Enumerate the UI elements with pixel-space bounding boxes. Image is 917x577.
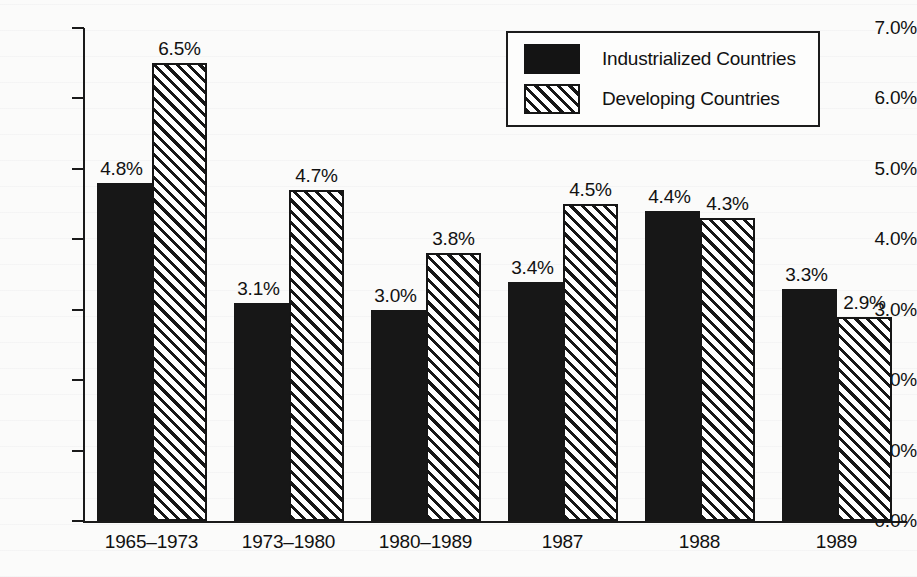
bar-developing[interactable]: [426, 253, 481, 521]
legend-item-developing-countries: Developing Countries: [524, 84, 780, 114]
bar-developing[interactable]: [563, 204, 618, 521]
bar-group: 3.1%4.7%: [220, 28, 357, 521]
x-axis-label: 1989: [768, 531, 905, 553]
x-axis-label: 1965–1973: [83, 531, 220, 553]
legend-swatch-solid-icon: [524, 44, 580, 74]
x-axis-label: 1973–1980: [220, 531, 357, 553]
bar-industrialized[interactable]: [645, 211, 700, 521]
bar-developing[interactable]: [700, 218, 755, 521]
bar-developing[interactable]: [289, 190, 344, 521]
bar-value-label: 4.4%: [639, 186, 701, 208]
bar-group: 3.0%3.8%: [357, 28, 494, 521]
bar-value-label: 6.5%: [149, 38, 211, 60]
bar-industrialized[interactable]: [782, 289, 837, 521]
bar-value-label: 3.4%: [502, 257, 564, 279]
bar-value-label: 3.0%: [365, 285, 427, 307]
bar-value-label: 3.1%: [228, 278, 290, 300]
x-axis-label: 1987: [494, 531, 631, 553]
bar-industrialized[interactable]: [508, 282, 563, 521]
legend-item-industrialized-countries: Industrialized Countries: [524, 44, 796, 74]
bar-industrialized[interactable]: [234, 303, 289, 521]
bar-value-label: 4.8%: [91, 158, 153, 180]
x-axis-label: 1988: [631, 531, 768, 553]
bar-value-label: 4.5%: [560, 179, 622, 201]
bar-developing[interactable]: [152, 63, 207, 521]
bar-value-label: 4.3%: [697, 193, 759, 215]
bar-value-label: 3.3%: [776, 264, 838, 286]
bar-developing[interactable]: [837, 317, 892, 521]
bar-value-label: 2.9%: [834, 292, 896, 314]
x-axis-label: 1980–1989: [357, 531, 494, 553]
legend-label-industrialized-countries: Industrialized Countries: [602, 48, 796, 70]
bar-value-label: 4.7%: [286, 165, 348, 187]
bar-industrialized[interactable]: [97, 183, 152, 521]
bar-chart: 7.0%6.0%5.0%4.0%3.0%2.0%1.0%0.0% 4.8%6.5…: [0, 0, 917, 577]
legend-label-developing-countries: Developing Countries: [602, 88, 780, 110]
x-axis-line: [83, 521, 907, 523]
bar-group: 4.8%6.5%: [83, 28, 220, 521]
bar-value-label: 3.8%: [423, 228, 485, 250]
legend-swatch-hatch-icon: [524, 84, 580, 114]
bar-industrialized[interactable]: [371, 310, 426, 521]
legend: Industrialized Countries Developing Coun…: [506, 31, 820, 127]
